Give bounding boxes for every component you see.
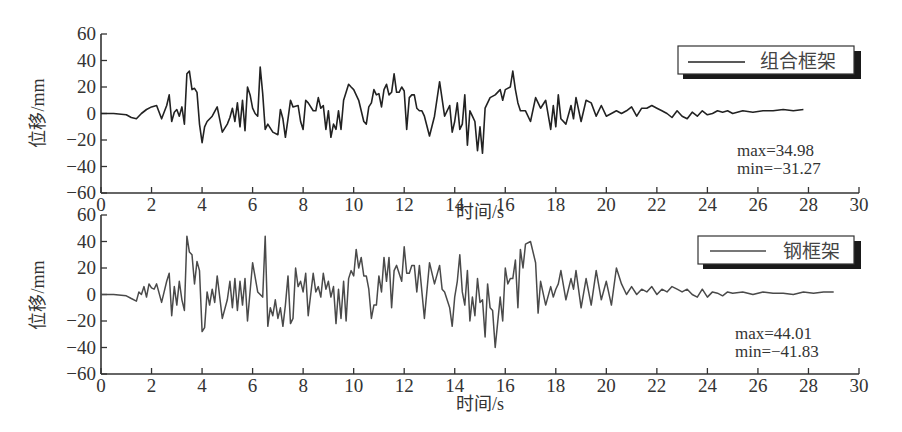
x-tick-label: 24 xyxy=(698,375,718,396)
legend-label: 组合框架 xyxy=(760,50,836,72)
x-tick-label: 8 xyxy=(298,194,308,215)
x-tick-label: 18 xyxy=(546,194,565,215)
plot-steel-frame: 6040200−20−40−60 02468101214161820222426… xyxy=(28,204,869,414)
x-axis-title: 时间/s xyxy=(456,202,504,222)
y-tick-labels: 6040200−20−40−60 xyxy=(66,23,96,203)
x-tick-label: 22 xyxy=(647,375,666,396)
x-tick-label: 2 xyxy=(147,194,157,215)
y-tick-label: −20 xyxy=(66,310,96,331)
y-tick-label: 40 xyxy=(77,231,96,252)
x-tick-label: 28 xyxy=(799,194,818,215)
x-tick-label: 26 xyxy=(748,375,767,396)
plot-composite-frame: 6040200−20−40−60 02468101214161820222426… xyxy=(28,23,869,222)
min-annotation: min=−31.27 xyxy=(737,159,821,178)
y-axis-title: 位移/mm xyxy=(28,260,48,329)
x-tick-label: 24 xyxy=(698,194,718,215)
x-tick-label: 2 xyxy=(147,375,157,396)
y-tick-label: 0 xyxy=(87,284,97,305)
x-tick-label: 10 xyxy=(344,375,363,396)
x-tick-label: 20 xyxy=(597,375,616,396)
y-tick-label: 40 xyxy=(77,50,96,71)
x-tick-label: 6 xyxy=(248,375,258,396)
legend-label: 钢框架 xyxy=(783,240,840,262)
x-tick-label: 4 xyxy=(197,194,207,215)
x-tick-label: 28 xyxy=(799,375,818,396)
x-tick-label: 14 xyxy=(445,375,465,396)
y-tick-label: 60 xyxy=(77,23,96,44)
x-tick-label: 4 xyxy=(197,375,207,396)
min-annotation: min=−41.83 xyxy=(735,342,819,361)
y-tick-label: 20 xyxy=(77,76,96,97)
x-tick-label: 18 xyxy=(546,375,565,396)
y-tick-labels: 6040200−20−40−60 xyxy=(66,204,96,384)
x-tick-label: 22 xyxy=(647,194,666,215)
y-tick-label: −40 xyxy=(66,156,96,177)
x-tick-label: 12 xyxy=(395,194,414,215)
x-tick-label: 10 xyxy=(344,194,363,215)
legend: 钢框架 xyxy=(698,236,861,269)
y-tick-label: −40 xyxy=(66,337,96,358)
x-tick-label: 26 xyxy=(748,194,767,215)
y-tick-label: −60 xyxy=(66,363,96,384)
x-tick-label: 6 xyxy=(248,194,258,215)
x-tick-label: 20 xyxy=(597,194,616,215)
max-annotation: max=44.01 xyxy=(735,324,812,343)
x-tick-label: 0 xyxy=(96,194,106,215)
x-tick-label: 30 xyxy=(850,375,869,396)
x-tick-label: 30 xyxy=(850,194,869,215)
figure: 6040200−20−40−60 02468101214161820222426… xyxy=(0,0,902,432)
x-axis-title: 时间/s xyxy=(456,394,504,414)
x-tick-label: 8 xyxy=(298,375,308,396)
x-tick-label: 16 xyxy=(496,375,515,396)
x-tick-label: 12 xyxy=(395,375,414,396)
y-tick-label: 0 xyxy=(87,103,97,124)
x-tick-label: 0 xyxy=(96,375,106,396)
x-tick-labels: 024681012141618202224262830 xyxy=(96,375,868,396)
y-tick-label: −20 xyxy=(66,129,96,150)
y-tick-label: 60 xyxy=(77,204,96,225)
max-annotation: max=34.98 xyxy=(737,141,814,160)
y-tick-label: −60 xyxy=(66,182,96,203)
displacement-line-composite xyxy=(101,67,803,153)
legend: 组合框架 xyxy=(678,46,861,79)
y-tick-label: 20 xyxy=(77,257,96,278)
y-axis-title: 位移/mm xyxy=(28,78,48,147)
